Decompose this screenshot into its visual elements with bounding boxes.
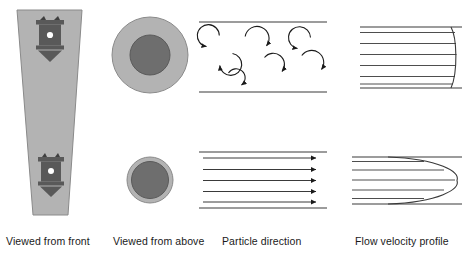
turbulent-duct-walls [199, 22, 327, 92]
nozzle-base-bar [36, 46, 64, 50]
parabolic-profile-curve [388, 157, 457, 204]
fluid-flow-diagram: Viewed from front Viewed from above Part… [0, 0, 471, 255]
front-view-svg [0, 0, 110, 232]
streamlines [360, 33, 457, 85]
eddy-arc [245, 26, 269, 45]
nozzle-orifice [48, 168, 54, 174]
blunt-profile-curve [451, 27, 456, 88]
turbulent-eddies [197, 25, 323, 85]
laminar-cross-section [127, 157, 173, 203]
caption-row: Viewed from front Viewed from above Part… [0, 233, 471, 255]
inner-circle [132, 162, 169, 199]
column-flow-velocity-profile [330, 0, 471, 232]
nozzle-top-bar [38, 157, 64, 162]
eddy-arc [220, 54, 242, 76]
above-view-svg [110, 0, 195, 232]
laminar-streamline-arrows [203, 158, 316, 202]
column-viewed-from-above [110, 0, 195, 232]
caption-viewed-from-front: Viewed from front [6, 235, 90, 247]
eddy-arc [265, 53, 285, 71]
caption-particle-direction: Particle direction [222, 235, 301, 247]
nozzle-top-bar [36, 20, 64, 25]
nozzle-orifice [47, 32, 53, 38]
particle-direction-svg [195, 0, 330, 232]
eddy-arc [302, 50, 324, 69]
nozzle-base-bar [38, 182, 64, 186]
streamlines [352, 162, 455, 199]
laminar-velocity-profile [352, 157, 462, 204]
turbulent-cross-section [112, 17, 188, 93]
velocity-profile-svg [330, 0, 471, 232]
inner-circle [130, 35, 170, 75]
column-viewed-from-front [0, 0, 110, 232]
caption-flow-velocity-profile: Flow velocity profile [355, 235, 449, 247]
turbulent-velocity-profile [360, 27, 462, 88]
column-particle-direction [195, 0, 330, 232]
eddy-arc [229, 69, 246, 85]
caption-viewed-from-above: Viewed from above [113, 235, 204, 247]
eddy-arc [197, 25, 219, 47]
eddy-arc [289, 27, 311, 49]
